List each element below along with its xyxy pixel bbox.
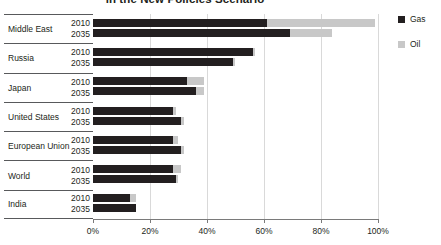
- year-label: 2035: [71, 146, 90, 157]
- category-label: India: [8, 199, 26, 209]
- bar-row[interactable]: [93, 19, 375, 27]
- category-label: European Union: [8, 141, 69, 151]
- x-axis-tick: [150, 219, 151, 223]
- bar-row[interactable]: [93, 204, 136, 212]
- legend-label-gas: Gas: [410, 15, 426, 24]
- bar-segment-oil[interactable]: [233, 58, 236, 66]
- bar-segment-gas[interactable]: [93, 29, 290, 37]
- year-label: 2010: [71, 193, 90, 204]
- gridline: [321, 14, 322, 219]
- bar-row[interactable]: [93, 175, 179, 183]
- legend-item-oil[interactable]: Oil: [398, 39, 441, 49]
- category-block: India20102035: [4, 190, 93, 219]
- year-label: 2035: [71, 204, 90, 215]
- x-axis-tick-label: 80%: [312, 226, 329, 236]
- bar-segment-gas[interactable]: [93, 146, 181, 154]
- year-label: 2035: [71, 29, 90, 40]
- bar-segment-gas[interactable]: [93, 175, 176, 183]
- gridline: [207, 14, 208, 219]
- bar-row[interactable]: [93, 146, 184, 154]
- bar-segment-oil[interactable]: [196, 87, 205, 95]
- bar-segment-gas[interactable]: [93, 48, 253, 56]
- category-block: United States20102035: [4, 102, 93, 131]
- category-block: Middle East20102035: [4, 14, 93, 43]
- plot-area: [93, 14, 378, 219]
- year-label-group: 20102035: [71, 191, 90, 218]
- year-label: 2035: [71, 58, 90, 69]
- bar-segment-oil[interactable]: [181, 117, 184, 125]
- bar-segment-oil[interactable]: [176, 175, 179, 183]
- x-axis-tick: [264, 219, 265, 223]
- bar-segment-gas[interactable]: [93, 204, 136, 212]
- x-axis-tick: [93, 219, 94, 223]
- category-label: United States: [8, 112, 59, 122]
- bar-row[interactable]: [93, 165, 181, 173]
- category-block: European Union20102035: [4, 131, 93, 160]
- bar-segment-oil[interactable]: [181, 146, 184, 154]
- bar-segment-oil[interactable]: [173, 107, 176, 115]
- chart-legend: GasOil: [398, 14, 441, 64]
- x-axis-tick: [321, 219, 322, 223]
- legend-swatch-oil: [398, 41, 405, 48]
- category-label: Japan: [8, 83, 31, 93]
- year-label-group: 20102035: [71, 74, 90, 102]
- bar-row[interactable]: [93, 87, 204, 95]
- category-label-column: Middle East20102035Russia20102035Japan20…: [4, 14, 93, 219]
- bar-segment-gas[interactable]: [93, 117, 181, 125]
- bar-segment-gas[interactable]: [93, 19, 267, 27]
- x-axis-tick-label: 60%: [255, 226, 272, 236]
- x-axis-tick-label: 40%: [198, 226, 215, 236]
- bar-segment-gas[interactable]: [93, 77, 187, 85]
- bar-segment-oil[interactable]: [290, 29, 333, 37]
- bar-segment-gas[interactable]: [93, 87, 196, 95]
- bar-segment-oil[interactable]: [173, 136, 179, 144]
- category-label: World: [8, 171, 30, 181]
- bar-segment-gas[interactable]: [93, 136, 173, 144]
- bar-segment-gas[interactable]: [93, 58, 233, 66]
- bar-segment-oil[interactable]: [267, 19, 375, 27]
- year-label-group: 20102035: [71, 44, 90, 72]
- year-label: 2010: [71, 77, 90, 88]
- bar-row[interactable]: [93, 58, 236, 66]
- gridline: [378, 14, 379, 219]
- bar-segment-oil[interactable]: [130, 194, 136, 202]
- x-axis-tick: [207, 219, 208, 223]
- year-label-group: 20102035: [71, 161, 90, 189]
- x-axis-tick-label: 100%: [367, 226, 389, 236]
- year-label-group: 20102035: [71, 132, 90, 160]
- year-label: 2010: [71, 18, 90, 29]
- bar-row[interactable]: [93, 107, 176, 115]
- bar-row[interactable]: [93, 194, 136, 202]
- chart-root: in the New Policies Scenario Middle East…: [0, 0, 441, 245]
- year-label-group: 20102035: [71, 103, 90, 131]
- year-label: 2035: [71, 117, 90, 128]
- x-axis-tick: [378, 219, 379, 223]
- bar-segment-gas[interactable]: [93, 165, 173, 173]
- year-label: 2035: [71, 176, 90, 187]
- category-label: Middle East: [8, 24, 52, 34]
- year-label: 2010: [71, 165, 90, 176]
- bar-row[interactable]: [93, 77, 204, 85]
- gridline: [264, 14, 265, 219]
- bar-row[interactable]: [93, 48, 255, 56]
- bar-row[interactable]: [93, 117, 184, 125]
- category-label: Russia: [8, 53, 34, 63]
- year-label: 2010: [71, 106, 90, 117]
- chart-title: in the New Policies Scenario: [0, 0, 370, 5]
- bar-segment-oil[interactable]: [173, 165, 182, 173]
- bar-row[interactable]: [93, 29, 332, 37]
- bar-segment-gas[interactable]: [93, 194, 130, 202]
- legend-item-gas[interactable]: Gas: [398, 14, 441, 24]
- category-block: Russia20102035: [4, 43, 93, 72]
- bar-segment-gas[interactable]: [93, 107, 173, 115]
- year-label-group: 20102035: [71, 15, 90, 43]
- x-axis-line: [93, 219, 379, 220]
- bar-segment-oil[interactable]: [253, 48, 256, 56]
- bar-row[interactable]: [93, 136, 179, 144]
- legend-label-oil: Oil: [410, 40, 420, 49]
- x-axis-tick-label: 20%: [141, 226, 158, 236]
- category-block: World20102035: [4, 160, 93, 189]
- year-label: 2035: [71, 88, 90, 99]
- year-label: 2010: [71, 47, 90, 58]
- bar-segment-oil[interactable]: [187, 77, 204, 85]
